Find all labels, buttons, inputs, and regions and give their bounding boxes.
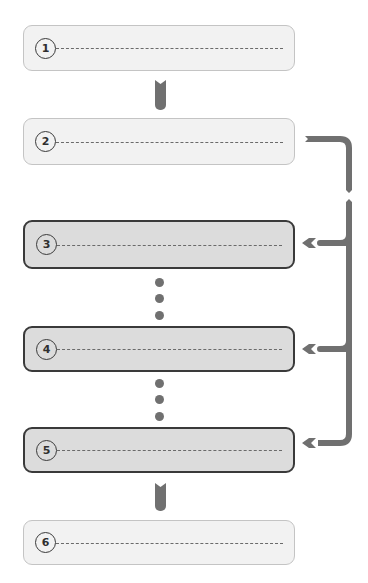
step-2-box: 2 <box>23 118 295 165</box>
placeholder-dashed-line <box>57 245 282 246</box>
placeholder-dashed-line <box>56 48 283 49</box>
placeholder-dashed-line <box>57 349 282 350</box>
branch-bracket-connector <box>0 0 368 583</box>
placeholder-dashed-line <box>56 543 283 544</box>
ellipsis-dot <box>155 278 164 287</box>
placeholder-dashed-line <box>57 450 282 451</box>
ellipsis-dot <box>155 294 164 303</box>
step-5-box: 5 <box>23 427 295 473</box>
step-number-badge: 4 <box>36 339 57 360</box>
step-4-box: 4 <box>23 326 295 372</box>
ellipsis-dot <box>155 395 164 404</box>
step-number-badge: 6 <box>35 532 56 553</box>
ellipsis-dot <box>155 379 164 388</box>
step-6-box: 6 <box>23 520 295 565</box>
step-1-box: 1 <box>23 25 295 71</box>
step-3-box: 3 <box>23 220 295 269</box>
ellipsis-dot <box>155 412 164 421</box>
step-number-badge: 3 <box>36 234 57 255</box>
arrow-1-to-2 <box>155 80 166 110</box>
arrow-5-to-6 <box>155 483 166 511</box>
step-number-badge: 2 <box>35 131 56 152</box>
ellipsis-dot <box>155 311 164 320</box>
step-number-badge: 5 <box>36 440 57 461</box>
placeholder-dashed-line <box>56 142 283 143</box>
step-number-badge: 1 <box>35 38 56 59</box>
